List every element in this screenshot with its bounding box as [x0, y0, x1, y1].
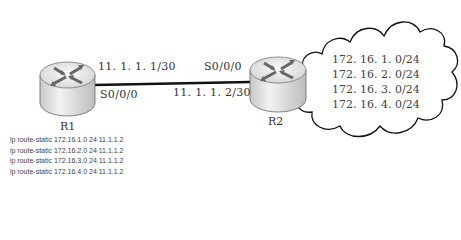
config-line: ip route-static 172.16.4.0 24 11.1.1.2 [10, 167, 124, 178]
router-r2-icon[interactable] [250, 57, 306, 112]
serial-link [94, 82, 250, 85]
config-line: ip route-static 172.16.1.0 24 11.1.1.2 [10, 135, 124, 146]
router-r1-label: R1 [60, 120, 75, 133]
network-entry: 172. 16. 1. 0/24 [332, 52, 420, 67]
r2-interface-label: S0/0/0 [204, 60, 242, 73]
network-entry: 172. 16. 2. 0/24 [332, 67, 420, 82]
r1-ip-label: 11. 1. 1. 1/30 [98, 60, 176, 73]
r1-static-routes: ip route-static 172.16.1.0 24 11.1.1.2 i… [10, 135, 124, 177]
config-line: ip route-static 172.16.3.0 24 11.1.1.2 [10, 156, 124, 167]
config-line: ip route-static 172.16.2.0 24 11.1.1.2 [10, 146, 124, 157]
router-r1-icon[interactable] [40, 62, 95, 116]
router-r2-label: R2 [268, 115, 283, 128]
r2-ip-label: 11. 1. 1. 2/30 [173, 86, 251, 99]
cloud-network-list: 172. 16. 1. 0/24 172. 16. 2. 0/24 172. 1… [332, 52, 420, 112]
r1-interface-label: S0/0/0 [100, 88, 138, 101]
network-entry: 172. 16. 4. 0/24 [332, 97, 420, 112]
network-entry: 172. 16. 3. 0/24 [332, 82, 420, 97]
